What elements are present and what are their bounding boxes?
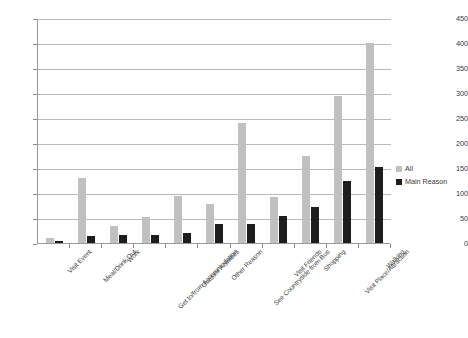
bar-group — [46, 18, 63, 243]
bar-group — [78, 18, 95, 243]
bar-main-reason — [279, 216, 287, 244]
bar-group — [110, 18, 127, 243]
legend-item[interactable]: Main Reason — [396, 176, 464, 187]
y-tick-label-250: 250 — [438, 115, 468, 123]
x-tick-mark — [197, 244, 198, 248]
x-tick-mark — [294, 244, 295, 248]
legend-swatch-icon — [396, 179, 402, 185]
bar-main-reason — [183, 233, 191, 243]
bar-all — [334, 96, 342, 244]
bar-all — [270, 197, 278, 244]
bar-group — [270, 18, 287, 243]
bar-all — [110, 226, 118, 244]
plot-area — [37, 19, 390, 244]
y-tick-label-50: 50 — [438, 215, 468, 223]
x-tick-mark — [69, 244, 70, 248]
bar-main-reason — [311, 207, 319, 243]
bar-all — [78, 178, 86, 243]
bar-all — [46, 238, 54, 243]
bar-all — [206, 204, 214, 243]
y-tick-label-300: 300 — [438, 90, 468, 98]
bar-all — [238, 123, 246, 243]
y-tick-label-0: 0 — [438, 240, 468, 248]
bar-group — [206, 18, 223, 243]
y-tick-label-450: 450 — [438, 15, 468, 23]
bar-all — [366, 43, 374, 243]
legend-label: Main Reason — [405, 178, 447, 186]
bar-main-reason — [55, 241, 63, 244]
bar-chart: 050100150200250300350400450 Visit EventM… — [0, 0, 468, 338]
y-tick-label-350: 350 — [438, 65, 468, 73]
bar-group — [174, 18, 191, 243]
y-tick-label-200: 200 — [438, 140, 468, 148]
bar-main-reason — [247, 224, 255, 243]
y-tick-mark-0 — [33, 244, 37, 245]
legend-item[interactable]: All — [396, 163, 464, 174]
bar-main-reason — [375, 167, 383, 243]
x-tick-mark — [326, 244, 327, 248]
x-tick-mark — [390, 244, 391, 248]
x-tick-mark — [133, 244, 134, 248]
y-tick-label-400: 400 — [438, 40, 468, 48]
bar-main-reason — [151, 235, 159, 244]
chart-legend: AllMain Reason — [396, 163, 464, 189]
bar-main-reason — [87, 236, 95, 244]
bar-group — [366, 18, 383, 243]
x-axis-label: Outdoor Activities — [200, 248, 241, 289]
x-tick-mark — [262, 244, 263, 248]
x-axis-label: See Countryside from Bus — [272, 248, 331, 307]
bar-group — [142, 18, 159, 243]
x-tick-mark — [101, 244, 102, 248]
bar-main-reason — [119, 235, 127, 244]
bar-group — [302, 18, 319, 243]
bar-main-reason — [215, 224, 223, 243]
bar-group — [238, 18, 255, 243]
x-axis-label: Visit Event — [66, 248, 93, 275]
bar-main-reason — [343, 181, 351, 244]
bar-all — [142, 217, 150, 244]
x-tick-mark — [230, 244, 231, 248]
x-tick-mark — [165, 244, 166, 248]
y-tick-label-100: 100 — [438, 190, 468, 198]
legend-label: All — [405, 165, 413, 173]
x-tick-mark — [358, 244, 359, 248]
bar-all — [302, 156, 310, 244]
bar-group — [334, 18, 351, 243]
legend-swatch-icon — [396, 166, 402, 172]
bar-all — [174, 196, 182, 244]
